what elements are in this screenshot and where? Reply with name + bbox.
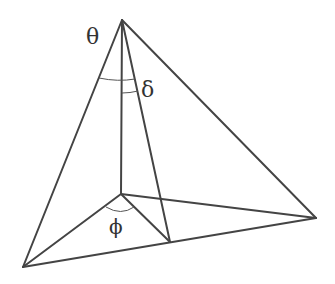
edge-base-inner xyxy=(121,194,170,242)
theta-label: θ xyxy=(86,24,99,49)
tetrahedron-diagram: θ δ ϕ xyxy=(0,0,335,284)
edge-base-right xyxy=(121,194,316,218)
edge-apex-right xyxy=(122,20,316,218)
theta-arc xyxy=(99,78,135,80)
delta-label: δ xyxy=(141,77,154,102)
edge-left-right xyxy=(23,218,316,267)
edge-apex-inner xyxy=(122,20,170,242)
edge-apex-base-vertical xyxy=(121,20,122,194)
phi-arc xyxy=(106,207,134,212)
delta-arc xyxy=(122,91,138,93)
phi-label: ϕ xyxy=(109,215,123,239)
